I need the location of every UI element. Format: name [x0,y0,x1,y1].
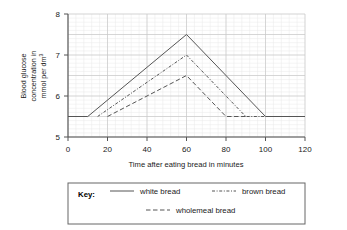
y-tick-label: 5 [56,133,61,142]
x-axis-title: Time after eating bread in minutes [129,160,244,169]
legend-key-label: Key: [78,190,95,199]
x-axis-ticks [68,137,305,141]
glucose-line-chart: 020406080100120 5678 Time after eating b… [0,0,347,230]
y-tick-label: 8 [56,10,61,19]
x-tick-label: 100 [259,145,273,154]
x-axis-tick-labels: 020406080100120 [66,145,312,154]
legend-label-wholemeal-bread: wholemeal bread [175,206,235,215]
chart-figure: 020406080100120 5678 Time after eating b… [0,0,347,230]
y-axis-title: Blood glucose concentration in mmol per … [19,51,48,102]
x-tick-label: 120 [298,145,312,154]
y-axis-title-line2: concentration in [29,51,38,102]
legend-label-brown-bread: brown bread [242,187,285,196]
y-tick-label: 6 [56,92,61,101]
x-tick-label: 80 [222,145,231,154]
y-axis-ticks [64,14,68,137]
x-tick-label: 60 [182,145,191,154]
legend-label-white-bread: white bread [139,187,180,196]
y-axis-title-line3: mmol per dm3 [38,53,48,98]
y-axis-title-line1: Blood glucose [19,53,28,98]
x-tick-label: 20 [103,145,112,154]
x-tick-label: 40 [143,145,152,154]
x-tick-label: 0 [66,145,71,154]
y-tick-label: 7 [56,51,61,60]
y-axis-tick-labels: 5678 [56,10,61,142]
